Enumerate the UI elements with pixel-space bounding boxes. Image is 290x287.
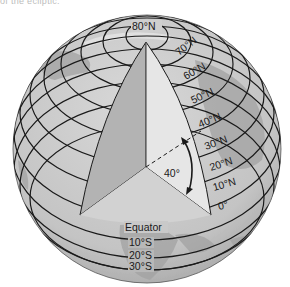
label-30s: 30°S <box>129 260 152 272</box>
angle-label: 40° <box>164 167 180 179</box>
latitude-globe-diagram: 40° 80°N 70°N 60°N 50°N 40°N 30°N 20°N 1… <box>0 0 290 287</box>
label-10s: 10°S <box>129 236 152 248</box>
label-80n: 80°N <box>132 20 155 32</box>
equator-label: Equator <box>125 221 162 233</box>
